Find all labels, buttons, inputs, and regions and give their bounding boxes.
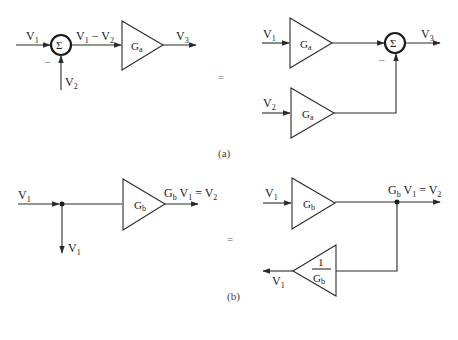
label-v1: V1 (18, 188, 31, 204)
label-v1: V1 (26, 29, 39, 45)
part-b-left-diagram: V1 V1 Gb Gb V1 = V2 (18, 179, 217, 257)
part-b-right-diagram: V1 Gb Gb V1 = V2 1 Gb V1 (263, 178, 441, 296)
label-v1: V1 (263, 27, 276, 43)
label-v3: V3 (421, 27, 434, 43)
caption-a: (a) (218, 147, 231, 160)
label-difference: V1 − V2 (76, 29, 114, 45)
minus-sign: – (378, 53, 385, 65)
part-a-right-diagram: V1 Ga V2 Ga Σ – V3 (262, 18, 440, 138)
sum-symbol: Σ (390, 37, 396, 49)
feedback-path (336, 202, 397, 271)
label-v2: V2 (65, 75, 78, 91)
part-a-left-diagram: V1 Σ – V2 V1 − V2 Ga V3 (16, 21, 196, 91)
label-branch-v1: V1 (68, 241, 81, 257)
label-output: Gb V1 = V2 (164, 186, 217, 202)
label-v1: V1 (265, 186, 278, 202)
inverse-gain-numerator: 1 (318, 256, 324, 268)
caption-b: (b) (227, 290, 240, 303)
amp2-to-sum-path (334, 54, 396, 113)
label-v2: V2 (263, 96, 276, 112)
equals-sign-a: = (218, 71, 224, 83)
equals-sign-b: = (227, 233, 233, 245)
sum-symbol: Σ (56, 39, 62, 51)
label-feedback-v1: V1 (272, 274, 285, 290)
block-diagram-equivalences: V1 Σ – V2 V1 − V2 Ga V3 = V1 Ga V2 Ga Σ … (0, 0, 458, 340)
amplifier-inverse-gb (293, 245, 336, 296)
label-output: Gb V1 = V2 (388, 183, 441, 199)
minus-sign: – (44, 55, 51, 67)
label-v3: V3 (176, 29, 189, 45)
